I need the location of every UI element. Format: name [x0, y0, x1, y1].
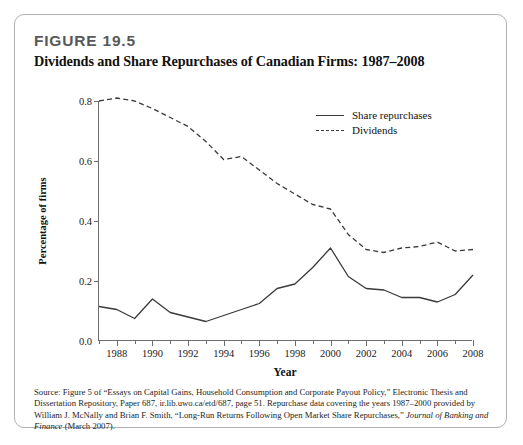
legend-label: Share repurchases — [352, 109, 432, 121]
chart-lines — [99, 101, 473, 341]
x-tick-label: 1990 — [142, 348, 163, 359]
x-tick-major — [224, 340, 225, 346]
x-tick-minor — [277, 340, 278, 344]
y-tick-mark — [94, 101, 99, 102]
legend-item: Dividends — [314, 122, 474, 137]
x-tick-label: 1994 — [213, 348, 234, 359]
y-tick-label: 0.0 — [79, 336, 92, 347]
x-tick-major — [152, 340, 153, 346]
x-tick-label: 1996 — [249, 348, 270, 359]
figure-card: FIGURE 19.5 Dividends and Share Repurcha… — [14, 14, 507, 428]
plot-box: 0.00.20.40.60.8 198819901992199419961998… — [98, 101, 472, 341]
x-tick-minor — [420, 340, 421, 344]
x-tick-label: 2000 — [320, 348, 341, 359]
x-tick-major — [402, 340, 403, 346]
x-tick-major — [437, 340, 438, 346]
x-tick-minor — [384, 340, 385, 344]
x-tick-major — [259, 340, 260, 346]
x-tick-minor — [99, 340, 100, 344]
x-tick-minor — [348, 340, 349, 344]
legend-item: Share repurchases — [314, 107, 474, 122]
x-tick-label: 1998 — [284, 348, 305, 359]
figure-title: Dividends and Share Repurchases of Canad… — [34, 52, 484, 71]
x-tick-minor — [135, 340, 136, 344]
x-tick-minor — [313, 340, 314, 344]
y-tick-mark — [94, 161, 99, 162]
x-tick-minor — [241, 340, 242, 344]
legend-line-icon — [314, 110, 346, 120]
x-tick-minor — [455, 340, 456, 344]
y-tick-label: 0.8 — [79, 96, 92, 107]
x-tick-major — [331, 340, 332, 346]
x-tick-label: 2006 — [427, 348, 448, 359]
y-tick-label: 0.6 — [79, 156, 92, 167]
y-tick-mark — [94, 281, 99, 282]
x-axis-title: Year — [98, 366, 472, 378]
legend-label: Dividends — [352, 124, 397, 136]
x-tick-major — [117, 340, 118, 346]
x-tick-label: 2008 — [463, 348, 484, 359]
y-tick-mark — [94, 221, 99, 222]
x-tick-minor — [206, 340, 207, 344]
y-tick-label: 0.4 — [79, 216, 92, 227]
figure-number: FIGURE 19.5 — [34, 31, 484, 50]
x-tick-label: 2004 — [391, 348, 412, 359]
chart-plot-area: Percentage of firms Year 0.00.20.40.60.8… — [34, 85, 489, 380]
y-tick-label: 0.2 — [79, 276, 92, 287]
x-tick-major — [295, 340, 296, 346]
y-axis-title: Percentage of firms — [37, 177, 48, 264]
x-tick-major — [366, 340, 367, 346]
chart-legend: Share repurchasesDividends — [314, 107, 474, 137]
source-note: Source: Figure 5 of “Essays on Capital G… — [34, 387, 490, 433]
series-line-share-repurchases — [99, 248, 473, 322]
x-tick-major — [473, 340, 474, 346]
figure-header: FIGURE 19.5 Dividends and Share Repurcha… — [34, 31, 484, 71]
x-tick-minor — [170, 340, 171, 344]
legend-line-icon — [314, 125, 346, 135]
x-tick-label: 2002 — [356, 348, 377, 359]
x-tick-major — [188, 340, 189, 346]
x-tick-label: 1988 — [106, 348, 127, 359]
x-tick-label: 1992 — [178, 348, 199, 359]
